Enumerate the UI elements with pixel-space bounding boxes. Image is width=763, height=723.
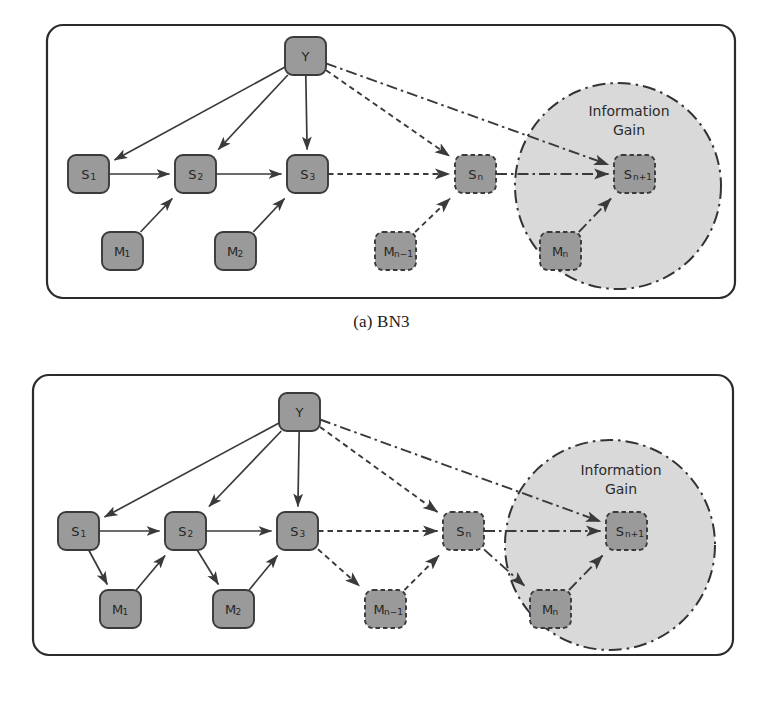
node-label: S <box>300 167 308 182</box>
node-subscript: n−1 <box>394 249 413 259</box>
node-M1: M1 <box>102 232 143 270</box>
node-label: M <box>373 602 384 617</box>
information-gain-label-line2: Gain <box>605 481 637 497</box>
node-M2: M2 <box>213 590 254 628</box>
node-subscript: 2 <box>198 172 204 182</box>
node-S1: S1 <box>58 512 99 550</box>
node-Mn: Mn <box>540 232 581 270</box>
node-subscript: 2 <box>188 529 194 539</box>
subfigure-bn3: Information Gain YS1S2S3SnSn+1M1M2Mn−1Mn… <box>0 0 763 350</box>
information-gain-label-line2: Gain <box>613 122 645 138</box>
node-Sn: Sn <box>455 155 496 193</box>
node-subscript: n <box>478 172 484 182</box>
node-subscript: n−1 <box>384 607 403 617</box>
node-subscript: 1 <box>81 529 87 539</box>
node-subscript: 1 <box>123 607 129 617</box>
node-label: S <box>468 167 476 182</box>
node-label: S <box>290 524 298 539</box>
node-label: M <box>114 244 125 259</box>
node-Y: Y <box>279 393 320 431</box>
node-subscript: 2 <box>238 249 244 259</box>
node-label: M <box>227 244 238 259</box>
bn3-diagram: Information Gain YS1S2S3SnSn+1M1M2Mn−1Mn <box>0 0 763 350</box>
node-S3: S3 <box>287 155 328 193</box>
information-gain-label-line1: Information <box>588 103 669 119</box>
node-S2: S2 <box>175 155 216 193</box>
node-Mn1: Mn−1 <box>365 590 406 628</box>
node-label: M <box>542 602 553 617</box>
node-label: S <box>624 167 632 182</box>
node-label: S <box>178 524 186 539</box>
node-subscript: 1 <box>91 172 97 182</box>
node-subscript: 3 <box>310 172 316 182</box>
node-Sn1: Sn+1 <box>606 512 647 550</box>
node-subscript: n <box>466 529 472 539</box>
node-label: Y <box>295 405 304 420</box>
caption-bn3: (a) BN3 <box>0 312 763 332</box>
node-subscript: n+1 <box>625 529 644 539</box>
node-label: S <box>616 524 624 539</box>
node-Y: Y <box>285 37 326 75</box>
node-subscript: n <box>563 249 569 259</box>
node-Mn: Mn <box>530 590 571 628</box>
node-label: S <box>71 524 79 539</box>
node-M1: M1 <box>100 590 141 628</box>
node-Sn1: Sn+1 <box>614 155 655 193</box>
node-Mn1: Mn−1 <box>375 232 416 270</box>
node-S2: S2 <box>165 512 206 550</box>
node-subscript: n <box>553 607 559 617</box>
node-label: S <box>81 167 89 182</box>
node-Sn: Sn <box>443 512 484 550</box>
node-subscript: n+1 <box>633 172 652 182</box>
node-S3: S3 <box>277 512 318 550</box>
node-subscript: 2 <box>236 607 242 617</box>
figure-bayesian-networks: Information Gain YS1S2S3SnSn+1M1M2Mn−1Mn… <box>0 0 763 723</box>
node-S1: S1 <box>68 155 109 193</box>
node-subscript: 3 <box>300 529 306 539</box>
node-label: M <box>112 602 123 617</box>
node-subscript: 1 <box>125 249 131 259</box>
bn4-diagram: Information Gain YS1S2S3SnSn+1M1M2Mn−1Mn <box>0 350 763 723</box>
node-label: Y <box>301 49 310 64</box>
subfigure-bn4: Information Gain YS1S2S3SnSn+1M1M2Mn−1Mn… <box>0 350 763 723</box>
node-label: M <box>552 244 563 259</box>
information-gain-label-line1: Information <box>580 462 661 478</box>
node-label: S <box>188 167 196 182</box>
node-label: M <box>225 602 236 617</box>
node-M2: M2 <box>215 232 256 270</box>
node-label: M <box>383 244 394 259</box>
node-label: S <box>456 524 464 539</box>
